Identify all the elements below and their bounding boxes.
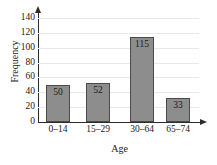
y-tick-label: 140: [21, 13, 35, 23]
bar: 33: [166, 98, 190, 123]
x-axis-line: [38, 122, 201, 123]
bar-value-label: 52: [87, 86, 109, 96]
y-tick-label: 40: [26, 88, 36, 98]
x-tick-label: 30–64: [122, 125, 162, 135]
x-axis-arrowhead: [200, 119, 207, 125]
bar-value-label: 33: [167, 101, 189, 111]
y-axis-title: Frequency: [9, 22, 20, 102]
gridline: [38, 63, 199, 64]
bar-value-label: 50: [47, 88, 69, 98]
y-axis-arrowhead: [35, 6, 41, 13]
y-tick-label: 120: [21, 28, 35, 38]
y-tick-label: 100: [21, 43, 35, 53]
y-tick-label: 0: [30, 117, 35, 127]
gridline: [38, 33, 199, 34]
bar: 52: [86, 83, 110, 122]
y-tick-label: 20: [26, 102, 36, 112]
x-tick-label: 0–14: [38, 125, 78, 135]
bar: 115: [130, 37, 154, 122]
y-tick-label: 80: [26, 58, 36, 68]
bar: 50: [46, 85, 70, 122]
gridline: [38, 77, 199, 78]
x-tick-label: 15–29: [78, 125, 118, 135]
bar-value-label: 115: [131, 40, 153, 50]
y-tick-label: 60: [26, 73, 36, 83]
gridline: [38, 48, 199, 49]
plot-area: 020406080100120140 505211533 0–1415–2930…: [38, 12, 206, 128]
gridline: [38, 18, 199, 19]
x-tick-label: 65–74: [158, 125, 198, 135]
y-axis-line: [38, 12, 39, 122]
x-axis-title: Age: [38, 143, 201, 154]
bar-chart-figure: Frequency 020406080100120140 505211533 0…: [0, 0, 217, 165]
